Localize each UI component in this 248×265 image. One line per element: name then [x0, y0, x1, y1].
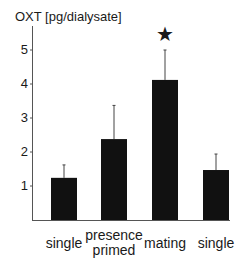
bar-0: [51, 178, 77, 220]
bar-3: [203, 170, 229, 220]
significance-star-icon: ★: [156, 24, 174, 44]
bar-1: [101, 139, 127, 220]
bar-2: [152, 80, 178, 220]
plot-area: [0, 0, 248, 265]
x-label-single-2: single: [186, 236, 246, 251]
